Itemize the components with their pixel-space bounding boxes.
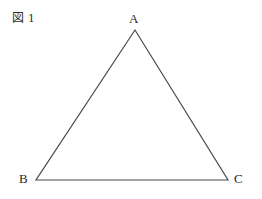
figure-root: 図 1 A B C <box>0 0 262 199</box>
vertex-label-b: B <box>19 172 28 185</box>
vertex-label-a: A <box>129 12 138 25</box>
triangle-diagram <box>0 0 262 199</box>
triangle-outline <box>36 30 228 180</box>
vertex-label-c: C <box>234 172 243 185</box>
